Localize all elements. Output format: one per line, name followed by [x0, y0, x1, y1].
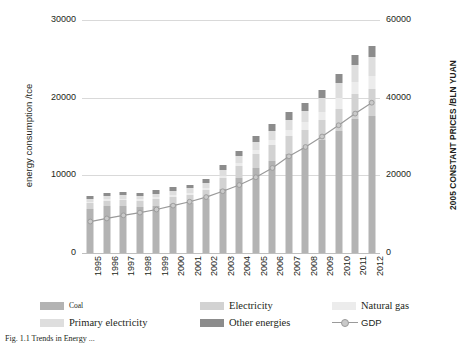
y-axis-right-tick-label: 60000	[386, 15, 446, 24]
y-axis-left-tick-label: 30000	[18, 15, 76, 24]
legend-item-gas[interactable]: Natural gas	[332, 298, 409, 313]
gdp-line-path	[90, 103, 371, 222]
legend-item-prim[interactable]: Primary electricity	[40, 315, 147, 330]
gdp-data-point[interactable]	[303, 145, 308, 150]
x-axis-tick-label: 2010	[343, 256, 352, 276]
gdp-data-point[interactable]	[104, 216, 109, 221]
legend-swatch-coal	[40, 302, 64, 310]
y-axis-right-tick-label: 0	[386, 248, 446, 257]
x-axis-tick-label: 2011	[359, 256, 368, 275]
x-axis-tick-label: 2001	[194, 256, 203, 276]
x-axis-tick-label: 1997	[127, 256, 136, 276]
y-axis-left-tick-label: 10000	[18, 170, 76, 179]
x-axis-tick-label: 2002	[210, 256, 219, 276]
y-axis-right-tick-label: 20000	[386, 170, 446, 179]
legend-label-prim: Primary electricity	[69, 317, 147, 328]
gdp-line-series	[82, 20, 380, 253]
x-axis-tick-label: 2012	[376, 256, 385, 276]
gdp-data-point[interactable]	[237, 183, 242, 188]
y-axis-right-title: 2005 CONSTANT PRICES /BLN YUAN	[448, 50, 458, 220]
legend-swatch-other	[200, 319, 224, 327]
chart-figure: energy consumption /tce 2005 CONSTANT PR…	[0, 0, 461, 345]
gdp-legend-marker-icon	[332, 318, 358, 328]
legend-row: CoalElectricityNatural gas	[22, 298, 447, 313]
gdp-data-point[interactable]	[138, 210, 143, 215]
x-axis-tick-label: 2006	[276, 256, 285, 276]
gdp-data-point[interactable]	[320, 134, 325, 139]
legend-swatch-elec	[200, 302, 224, 310]
legend-item-other[interactable]: Other energies	[200, 315, 290, 330]
gdp-data-point[interactable]	[187, 199, 192, 204]
y-axis-left-title: energy consumption /tce	[23, 51, 34, 221]
y-axis-right-tick-label: 40000	[386, 93, 446, 102]
x-axis-ticks: 1995199619971998199920002001200220032004…	[82, 256, 380, 300]
gdp-data-point[interactable]	[88, 219, 93, 224]
plot-area	[82, 20, 380, 253]
legend-swatch-gas	[332, 302, 356, 310]
legend-item-elec[interactable]: Electricity	[200, 298, 273, 313]
figure-caption: Fig. 1.1 Trends in Energy ...	[5, 334, 455, 345]
gdp-data-point[interactable]	[353, 111, 358, 116]
x-axis-tick-label: 2007	[293, 256, 302, 276]
legend-label-coal: Coal	[69, 301, 83, 310]
x-axis-tick-label: 1995	[94, 256, 103, 276]
legend-item-coal[interactable]: Coal	[40, 298, 83, 313]
y-axis-left-tick-label: 0	[18, 248, 76, 257]
legend-label-other: Other energies	[229, 317, 290, 328]
legend-label-gdp: GDP	[361, 317, 382, 328]
gdp-data-point[interactable]	[154, 207, 159, 212]
gdp-data-point[interactable]	[121, 213, 126, 218]
x-axis-tick-label: 2004	[243, 256, 252, 276]
gdp-data-point[interactable]	[204, 195, 209, 200]
x-axis-tick-label: 1996	[111, 256, 120, 276]
gdp-data-point[interactable]	[287, 154, 292, 159]
y-axis-left-tick-label: 20000	[18, 93, 76, 102]
x-axis-tick-label: 2008	[310, 256, 319, 276]
gdp-data-point[interactable]	[220, 189, 225, 194]
legend-swatch-prim	[40, 319, 64, 327]
gdp-data-point[interactable]	[270, 166, 275, 171]
x-axis-tick-label: 2005	[260, 256, 269, 276]
x-axis-tick-label: 2003	[227, 256, 236, 276]
legend-row: Primary electricityOther energiesGDP	[22, 315, 447, 330]
x-axis-tick-label: 1998	[144, 256, 153, 276]
x-axis-tick-label: 2000	[177, 256, 186, 276]
legend-item-gdp[interactable]: GDP	[332, 315, 382, 330]
gdp-data-point[interactable]	[369, 100, 374, 105]
chart-legend: CoalElectricityNatural gasPrimary electr…	[22, 298, 447, 332]
x-axis-tick-label: 2009	[326, 256, 335, 276]
gdp-data-point[interactable]	[336, 123, 341, 128]
legend-label-gas: Natural gas	[361, 300, 409, 311]
x-axis-tick-label: 1999	[161, 256, 170, 276]
gdp-data-point[interactable]	[253, 175, 258, 180]
gdp-data-point[interactable]	[171, 203, 176, 208]
gridline	[82, 253, 380, 254]
legend-label-elec: Electricity	[229, 300, 273, 311]
